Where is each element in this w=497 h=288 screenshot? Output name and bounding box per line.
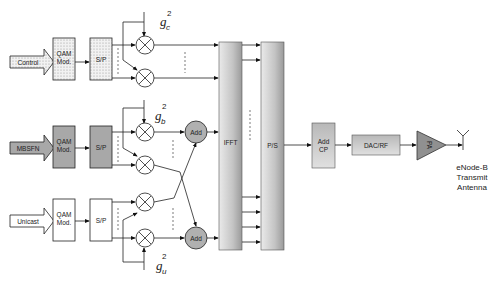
- svg-text:CP: CP: [319, 146, 328, 153]
- svg-text:Antenna: Antenna: [457, 183, 487, 192]
- svg-text:QAM: QAM: [57, 211, 72, 219]
- svg-text:Add: Add: [190, 129, 202, 136]
- control-chain: Control QAM Mod. S/P g 2 c: [10, 9, 218, 87]
- multiplier-b2: [136, 156, 154, 174]
- block-diagram: Control QAM Mod. S/P g 2 c MBSFN QAM Mod…: [0, 0, 497, 288]
- svg-text:QAM: QAM: [57, 138, 72, 146]
- svg-text:S/P: S/P: [96, 144, 106, 151]
- svg-text:S/P: S/P: [96, 217, 106, 224]
- svg-text:S/P: S/P: [96, 56, 106, 63]
- multiplier-c1: [136, 36, 154, 54]
- svg-text:Mod.: Mod.: [57, 146, 72, 153]
- svg-text:Add: Add: [190, 235, 202, 242]
- svg-text:c: c: [166, 23, 170, 32]
- svg-text:2: 2: [167, 9, 172, 18]
- svg-text:Transmit: Transmit: [457, 173, 489, 182]
- svg-text:u: u: [162, 267, 167, 276]
- svg-text:P/S: P/S: [267, 142, 278, 149]
- control-label: Control: [18, 59, 40, 66]
- svg-text:Add: Add: [318, 138, 330, 145]
- svg-text:Mod.: Mod.: [57, 219, 72, 226]
- svg-text:Unicast: Unicast: [17, 218, 39, 225]
- mbsfn-chain: MBSFN QAM Mod. S/P g 2 b: [10, 100, 184, 174]
- svg-text:Mod.: Mod.: [57, 58, 72, 65]
- pa-amplifier: PA: [417, 131, 446, 160]
- svg-text:2: 2: [162, 252, 167, 261]
- adder-2: Add: [185, 227, 207, 249]
- unicast-chain: Unicast QAM Mod. S/P g 2 u: [10, 193, 184, 276]
- add-cp-block: Add CP: [312, 123, 335, 168]
- svg-text:MBSFN: MBSFN: [17, 145, 40, 152]
- multiplier-u2: [136, 229, 154, 247]
- ps-block: P/S: [261, 42, 284, 250]
- svg-text:eNode-B: eNode-B: [456, 163, 488, 172]
- multiplier-b1: [136, 123, 154, 141]
- svg-text:b: b: [161, 117, 166, 126]
- adder-1: Add: [185, 121, 207, 143]
- antenna-icon: [457, 130, 469, 150]
- svg-text:PA: PA: [426, 141, 433, 150]
- svg-text:DAC/RF: DAC/RF: [364, 142, 388, 149]
- svg-text:QAM: QAM: [57, 50, 72, 58]
- dac-rf-block: DAC/RF: [352, 135, 400, 155]
- svg-text:2: 2: [162, 102, 167, 111]
- multiplier-u1: [136, 193, 154, 211]
- ifft-block: IFFT: [219, 42, 242, 250]
- multiplier-c2: [136, 69, 154, 87]
- svg-text:IFFT: IFFT: [224, 139, 238, 146]
